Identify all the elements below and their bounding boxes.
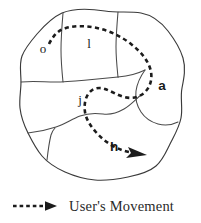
dashed-arrow-icon [12,199,62,213]
legend: User's Movement [0,192,201,220]
region-label-a: a [158,78,166,93]
region-label-j: j [77,92,82,107]
legend-label: User's Movement [69,198,174,215]
region-label-layer: o l a j h [0,0,201,190]
region-label-l: l [87,36,91,51]
region-label-o: o [40,41,47,56]
movement-diagram: o l a j h User's Movement [0,0,201,223]
region-label-h: h [110,139,118,154]
